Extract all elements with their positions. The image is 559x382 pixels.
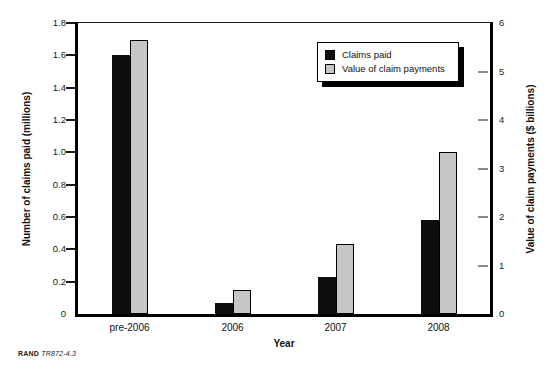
bar-claim-value [233,290,251,314]
left-axis-tick [66,216,75,218]
right-axis-tick-label: 0 [499,308,527,320]
left-axis-tick-label: 1.6 [26,49,66,61]
right-axis-tick [478,265,488,267]
left-axis-tick-label: 1.0 [26,146,66,158]
left-axis-tick [66,248,75,250]
figure-id-text: TR872-4.3 [41,350,76,357]
right-axis-tick [478,168,488,170]
right-axis-tick-label: 2 [499,211,527,223]
right-axis-tick [478,119,488,121]
left-axis-tick-label: 0 [26,308,66,320]
legend-label: Claims paid [342,48,392,62]
figure: Number of claims paid (millions) Value o… [0,0,559,382]
x-axis-tick-label: pre-2006 [78,322,182,333]
right-axis-tick-label: 5 [499,66,527,78]
left-axis-tick-label: 0.4 [26,243,66,255]
legend-item-claim-value: Value of claim payments [325,62,452,76]
bar-claim-value [130,40,148,314]
right-axis-tick [478,216,488,218]
legend: Claims paid Value of claim payments [317,42,459,82]
left-axis-tick [66,119,75,121]
rand-brand-text: RAND [18,350,39,357]
left-axis-tick-label: 0.8 [26,179,66,191]
bar-claims-paid [318,277,336,314]
bar-claims-paid [112,55,130,314]
x-axis-tick-label: 2007 [284,322,388,333]
legend-item-claims-paid: Claims paid [325,48,452,62]
left-axis-tick-label: 1.8 [26,17,66,29]
left-axis-tick [66,151,75,153]
x-axis-tick-label: 2006 [181,322,285,333]
right-axis-tick [478,71,488,73]
claims-paid-swatch-icon [325,50,335,60]
bar-claim-value [336,244,354,314]
left-axis-tick-label: 0.2 [26,276,66,288]
left-axis-tick [66,54,75,56]
left-axis-tick [66,22,75,24]
x-axis-title: Year [244,337,324,351]
right-axis-tick-label: 6 [499,17,527,29]
left-axis-tick [66,184,75,186]
right-axis-tick-label: 3 [499,163,527,175]
x-axis-tick-label: 2008 [387,322,491,333]
source-caption: RAND TR872-4.3 [18,350,76,357]
left-axis-tick-label: 0.6 [26,211,66,223]
right-axis-tick-label: 4 [499,114,527,126]
bar-claim-value [439,152,457,314]
claim-value-swatch-icon [325,64,335,74]
right-axis-tick-label: 1 [499,260,527,272]
left-axis-tick-label: 1.2 [26,114,66,126]
left-axis-tick [66,281,75,283]
left-axis-tick-label: 1.4 [26,82,66,94]
legend-label: Value of claim payments [342,62,445,76]
left-axis-title: Number of claims paid (millions) [20,19,34,319]
bar-claims-paid [421,220,439,314]
left-axis-tick [66,87,75,89]
bar-claims-paid [215,303,233,314]
